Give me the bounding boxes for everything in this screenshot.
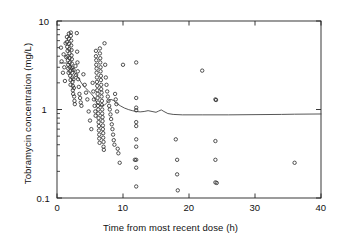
x-tick-label-0: 0 [55, 202, 60, 213]
x-tick-label-10: 10 [118, 202, 129, 213]
y-tick-label-1: 1 [42, 104, 47, 115]
scatter-plot-figure: 10 1 0.1 0 10 20 30 40 Time from most re… [0, 0, 341, 243]
x-tick-label-20: 20 [184, 202, 195, 213]
plot-canvas [0, 0, 341, 243]
x-axis-title: Time from most recent dose (h) [0, 222, 341, 233]
y-tick-label-0-1: 0.1 [37, 193, 50, 204]
data-points [59, 31, 296, 192]
x-tick-label-30: 30 [250, 202, 261, 213]
y-axis-title: Tobramycin concentration (mg/L) [22, 24, 33, 204]
y-tick-label-10: 10 [39, 16, 50, 27]
x-tick-label-40: 40 [316, 202, 327, 213]
